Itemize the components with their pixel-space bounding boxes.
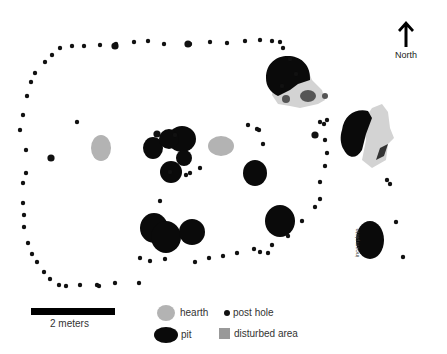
north-label: North [386, 50, 426, 60]
post-hole [325, 118, 329, 122]
post-hole [225, 41, 229, 45]
post-hole [281, 46, 285, 50]
post-hole [266, 251, 270, 255]
post-hole [43, 60, 47, 64]
legend-post-hole-swatch [224, 310, 230, 316]
post-hole [188, 171, 192, 175]
post-hole [24, 171, 28, 175]
scale-bar-label: 2 meters [50, 318, 89, 329]
north-indicator: North [386, 20, 426, 60]
post-hole [184, 173, 188, 177]
post-hole [162, 42, 166, 46]
post-hole [168, 170, 172, 174]
post-hole [294, 72, 298, 76]
hearth [91, 135, 111, 161]
post-hole [322, 122, 326, 126]
post-hole [318, 180, 322, 184]
post-hole [57, 283, 61, 287]
post-hole [21, 201, 25, 205]
pit-north-small-1 [282, 95, 290, 103]
pit [159, 129, 179, 149]
post-hole [323, 138, 327, 142]
post-hole [138, 256, 142, 260]
pit [151, 221, 181, 253]
post-hole [246, 123, 250, 127]
post-hole [58, 46, 62, 50]
legend-hearth-swatch [157, 305, 175, 321]
post-hole [26, 241, 30, 245]
post-hole [270, 39, 274, 43]
post-hole [388, 182, 392, 186]
post-hole [48, 277, 52, 281]
pit [176, 150, 192, 166]
incomplete-annotation: incomplete [354, 228, 360, 257]
post-hole-large [111, 42, 118, 49]
site-plan [0, 0, 447, 354]
post-hole [158, 199, 162, 203]
post-hole-large [311, 131, 318, 138]
post-hole [35, 260, 39, 264]
post-hole [25, 94, 29, 98]
post-hole [235, 251, 239, 255]
legend-hearth-label: hearth [180, 307, 208, 318]
post-hole [75, 120, 79, 124]
post-hole [42, 270, 46, 274]
post-hole [221, 254, 225, 258]
post-hole-large [153, 130, 160, 137]
post-hole [261, 142, 265, 146]
legend-pit-label: pit [181, 329, 192, 340]
post-hole [401, 255, 405, 259]
post-hole-large [47, 154, 54, 161]
post-hole [24, 148, 28, 152]
post-hole [270, 243, 274, 247]
post-hole [258, 38, 262, 42]
north-arrow-icon [396, 20, 416, 48]
post-hole [146, 39, 150, 43]
post-hole [22, 225, 26, 229]
post-hole [113, 281, 117, 285]
post-hole [97, 284, 101, 288]
pit [356, 221, 384, 259]
post-hole [323, 164, 327, 168]
post-hole [207, 256, 211, 260]
post-hole [278, 40, 282, 44]
post-hole [29, 80, 33, 84]
post-hole [132, 40, 136, 44]
post-hole [243, 39, 247, 43]
post-hole [198, 166, 202, 170]
post-hole [78, 283, 82, 287]
post-hole [70, 44, 74, 48]
legend-disturbed-area-label: disturbed area [234, 328, 298, 339]
post-hole [257, 128, 261, 132]
post-hole [82, 44, 86, 48]
post-hole [137, 281, 141, 285]
pit [265, 205, 295, 237]
post-hole [30, 252, 34, 256]
post-hole [64, 284, 68, 288]
post-hole [193, 260, 197, 264]
post-hole [18, 128, 22, 132]
post-hole [163, 257, 167, 261]
legend-disturbed-area-swatch [219, 328, 230, 339]
post-hole [318, 120, 322, 124]
pit [243, 160, 267, 186]
scale-bar [31, 308, 115, 315]
post-hole [280, 84, 284, 88]
post-hole [385, 178, 389, 182]
post-hole [50, 53, 54, 57]
hearth [208, 136, 234, 156]
post-hole-large [184, 40, 191, 47]
post-hole [252, 247, 256, 251]
post-hole [318, 197, 322, 201]
post-hole [394, 220, 398, 224]
post-hole [148, 259, 152, 263]
post-hole [313, 205, 317, 209]
pit [179, 219, 205, 245]
pit-north-inner [300, 90, 316, 102]
post-hole [98, 43, 102, 47]
legend-pit-swatch [154, 327, 178, 343]
post-hole [288, 57, 292, 61]
post-hole [208, 40, 212, 44]
pit-north-small-2 [322, 93, 328, 99]
post-hole [21, 113, 25, 117]
